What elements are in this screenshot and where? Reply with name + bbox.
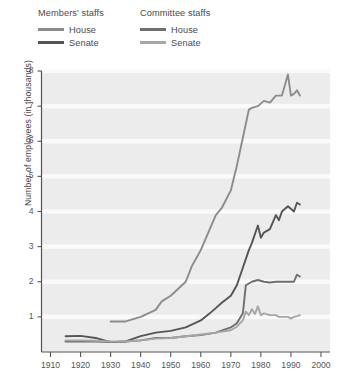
y-axis-tick-7: 7 <box>16 100 34 110</box>
y-axis-tick-8: 8 <box>16 65 34 75</box>
y-axis-tick-5: 5 <box>16 170 34 180</box>
y-axis-tick-3: 3 <box>16 241 34 251</box>
x-axis-tick-2000: 2000 <box>301 360 341 370</box>
y-axis-tick-6: 6 <box>16 135 34 145</box>
y-axis-tick-4: 4 <box>16 206 34 216</box>
y-axis-tick-2: 2 <box>16 276 34 286</box>
plot-svg <box>0 0 344 384</box>
chart-figure: Members' staffs House Senate Committee s… <box>0 0 344 384</box>
plot-area-container: Number of employees (in thousands) 12345… <box>0 0 344 384</box>
y-axis-tick-1: 1 <box>16 311 34 321</box>
